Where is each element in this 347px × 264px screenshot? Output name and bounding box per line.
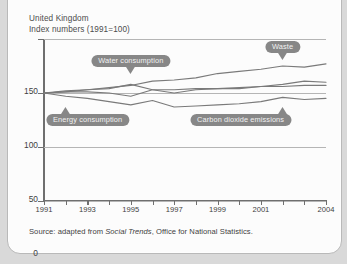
x-tick-label-1991: 1991 (36, 205, 53, 214)
callout-carbon-dioxide-emissions: Carbon dioxide emissions (190, 114, 291, 126)
callout-energy-consumption: Energy consumption (46, 114, 129, 126)
source-suffix: , Office for National Statistics. (152, 227, 253, 236)
y-tick-label-150: 150 (9, 86, 38, 96)
callout-pointer-down-icon (278, 52, 288, 60)
series-line-water-consumption (44, 81, 326, 93)
callout-pointer-up-icon (61, 107, 71, 115)
callout-pointer-up-icon (278, 107, 288, 115)
chart-card: United Kingdom Index numbers (1991=100) … (7, 0, 342, 254)
series-line-carbon-dioxide-emissions (44, 93, 326, 107)
callout-pointer-down-icon (126, 66, 136, 74)
y-tick-label-100: 100 (9, 140, 38, 150)
page-container: United Kingdom Index numbers (1991=100) … (0, 0, 347, 264)
callout-water-consumption: Water consumption (91, 55, 170, 67)
source-prefix: Source: adapted from (29, 227, 105, 236)
chart-card-inner: United Kingdom Index numbers (1991=100) … (8, 0, 341, 253)
x-tick-label-2004: 2004 (318, 205, 335, 214)
source-publication: Social Trends (105, 227, 152, 236)
source-note: Source: adapted from Social Trends, Offi… (29, 227, 329, 236)
series-line-waste (44, 64, 326, 93)
callout-label: Waste (265, 41, 300, 53)
x-tick-label-1997: 1997 (166, 205, 183, 214)
x-tick-label-1995: 1995 (122, 205, 139, 214)
callout-waste: Waste (265, 41, 300, 53)
callout-label: Water consumption (91, 55, 170, 67)
y-tick-label-50: 50 (9, 194, 38, 204)
x-tick-label-2001: 2001 (252, 205, 269, 214)
x-tick-label-1993: 1993 (79, 205, 96, 214)
callout-label: Energy consumption (46, 114, 129, 126)
x-tick-label-1999: 1999 (209, 205, 226, 214)
y-axis-labels: 050100150 (8, 39, 38, 201)
callout-label: Carbon dioxide emissions (190, 114, 291, 126)
y-tick-label-0: 0 (9, 248, 38, 258)
x-tick-2004 (326, 200, 327, 205)
